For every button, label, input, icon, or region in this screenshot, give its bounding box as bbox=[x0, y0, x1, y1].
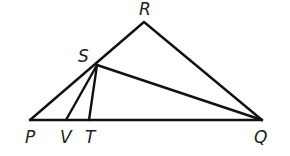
label-R: R bbox=[139, 0, 151, 19]
label-Q: Q bbox=[254, 127, 267, 147]
label-S: S bbox=[78, 46, 89, 66]
segment-RQ bbox=[144, 22, 262, 120]
vertex-labels: R S P V T Q bbox=[25, 0, 267, 147]
triangle-diagram: R S P V T Q bbox=[0, 0, 290, 156]
label-V: V bbox=[60, 127, 73, 147]
label-P: P bbox=[25, 127, 36, 147]
segment-SQ bbox=[97, 65, 262, 120]
segment-PR bbox=[30, 22, 144, 120]
segments bbox=[30, 22, 262, 120]
label-T: T bbox=[85, 127, 97, 147]
